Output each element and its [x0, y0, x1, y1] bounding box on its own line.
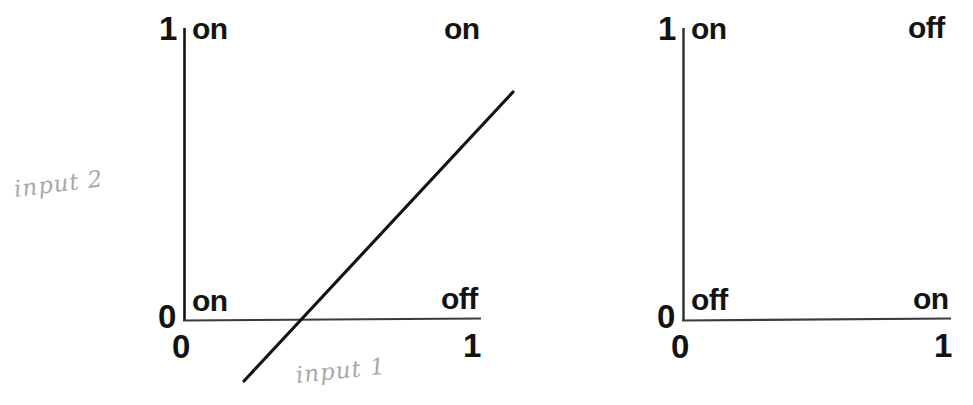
left-plot-y-tick-top: 1 — [159, 12, 177, 45]
left-plot-corner-bottom-right: off — [441, 284, 478, 314]
right-plot-corner-top-right: off — [908, 13, 945, 43]
right-plot-x-tick-left: 0 — [671, 330, 689, 363]
figure-root: 1 on on on off 0 0 1 1 on off off on 0 0… — [0, 0, 973, 405]
left-plot-corner-top-right: on — [444, 14, 480, 44]
left-plot-x-tick-right: 1 — [463, 329, 481, 362]
figure-canvas — [0, 0, 973, 405]
right-plot-corner-bottom-left: off — [691, 285, 728, 315]
left-plot-corner-bottom-left: on — [192, 286, 228, 316]
right-plot-axes — [682, 28, 951, 321]
right-plot-corner-top-left: on — [691, 14, 727, 44]
left-plot-corner-top-left: on — [192, 14, 228, 44]
left-plot-x-tick-left: 0 — [172, 330, 190, 363]
left-plot-x-axis — [183, 319, 481, 321]
right-plot-corner-bottom-right: on — [913, 284, 949, 314]
right-plot-y-tick-top: 1 — [658, 12, 676, 45]
right-plot-x-axis — [682, 319, 951, 321]
right-plot-x-tick-right: 1 — [934, 329, 952, 362]
